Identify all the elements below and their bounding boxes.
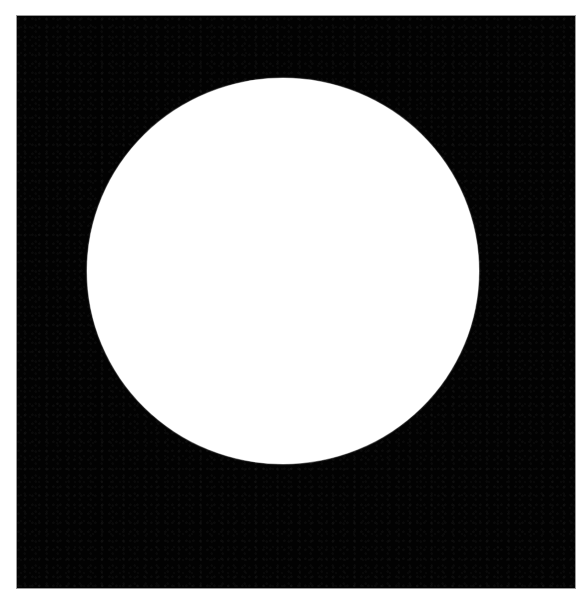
white-circle xyxy=(87,78,479,464)
figure-canvas xyxy=(0,0,586,606)
